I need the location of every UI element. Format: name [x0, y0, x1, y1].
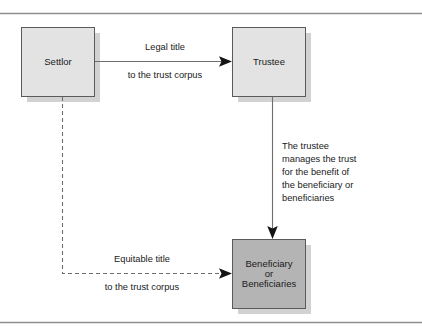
trust-relationship-diagram: Settlor Trustee Beneficiary or Beneficia…: [0, 0, 422, 332]
legal-title-corpus-label: to the trust corpus: [128, 70, 203, 80]
equitable-title-label: Equitable title: [114, 254, 170, 264]
equitable-title-corpus-label: to the trust corpus: [105, 282, 180, 292]
trustee-duty-line-1: The trustee: [282, 141, 329, 151]
settlor-to-beneficiary-arrowhead-icon: [219, 268, 232, 279]
trustee-duty-line-3: for the benefit of: [282, 167, 350, 177]
trustee-label: Trustee: [253, 56, 285, 67]
diagram-canvas: Settlor Trustee Beneficiary or Beneficia…: [0, 0, 422, 332]
settlor-label: Settlor: [44, 56, 71, 67]
beneficiary-label-line-3: Beneficiaries: [242, 278, 297, 289]
legal-title-label: Legal title: [145, 42, 185, 52]
trustee-duty-line-2: manages the trust: [282, 154, 357, 164]
settlor-to-beneficiary-line: [63, 97, 225, 274]
trustee-duty-line-4: the beneficiary or: [282, 180, 353, 190]
trustee-duty-line-5: beneficiaries: [282, 193, 335, 203]
